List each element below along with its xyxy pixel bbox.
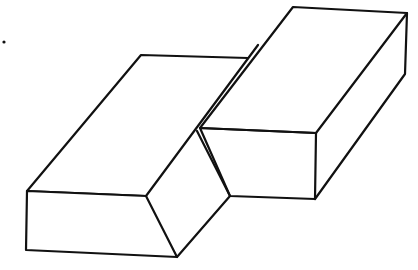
right-block-side-face bbox=[315, 13, 407, 199]
block-diagram-svg bbox=[0, 0, 418, 270]
fault-face-edges bbox=[177, 131, 230, 257]
block-diagram bbox=[0, 0, 418, 270]
stray-dot bbox=[2, 40, 5, 43]
right-block-front-face bbox=[200, 128, 316, 199]
right-block bbox=[200, 7, 407, 199]
fault-face bbox=[177, 131, 230, 257]
left-block bbox=[26, 45, 258, 257]
